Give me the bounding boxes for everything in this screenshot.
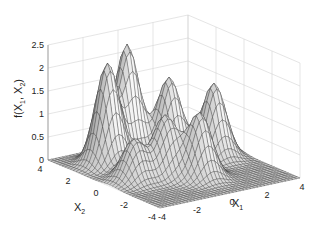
z-tick-label: 2 (39, 63, 44, 73)
x1-tick-label: 2 (264, 190, 269, 200)
z-axis-label: f(X1, X2) (12, 79, 26, 118)
surface-mesh (48, 44, 300, 208)
z-tick-label: 1 (39, 109, 44, 119)
grid-line-z (48, 38, 300, 86)
x2-tick-label: -4 (148, 212, 156, 222)
x2-tick-label: -2 (120, 200, 128, 210)
grid-line-z (48, 15, 300, 63)
surface-plot: 00.511.522.5-4-2024420-2-4 X1 X2 f(X1, X… (0, 0, 319, 238)
x1-tick-label: -2 (193, 205, 201, 215)
x2-tick-label: 0 (93, 188, 98, 198)
x1-tick-label: -4 (158, 212, 166, 222)
z-tick-label: 2.5 (31, 40, 44, 50)
z-tick-label: 1.5 (31, 86, 44, 96)
x1-axis-label: X1 (232, 197, 243, 211)
x2-tick-label: 2 (65, 176, 70, 186)
x2-tick-label: 4 (37, 164, 42, 174)
x1-tick-label: 4 (299, 182, 304, 192)
z-tick-label: 0.5 (31, 132, 44, 142)
x2-axis-label: X2 (74, 201, 85, 215)
